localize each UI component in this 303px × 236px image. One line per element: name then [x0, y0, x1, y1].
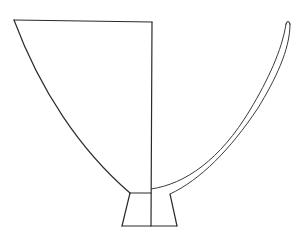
foot-right-side	[170, 194, 177, 226]
inner-wall-curve	[151, 24, 286, 189]
foot	[122, 193, 177, 226]
rim-tip	[286, 22, 290, 25]
foot-left-side	[122, 193, 130, 226]
left-profile-curve	[14, 20, 130, 193]
right-section-wall	[151, 22, 290, 195]
rim-line	[14, 20, 152, 22]
outer-wall-curve	[170, 24, 290, 194]
vessel-profile-drawing	[0, 0, 303, 236]
left-exterior-half	[14, 20, 152, 193]
center-axis	[151, 22, 152, 226]
